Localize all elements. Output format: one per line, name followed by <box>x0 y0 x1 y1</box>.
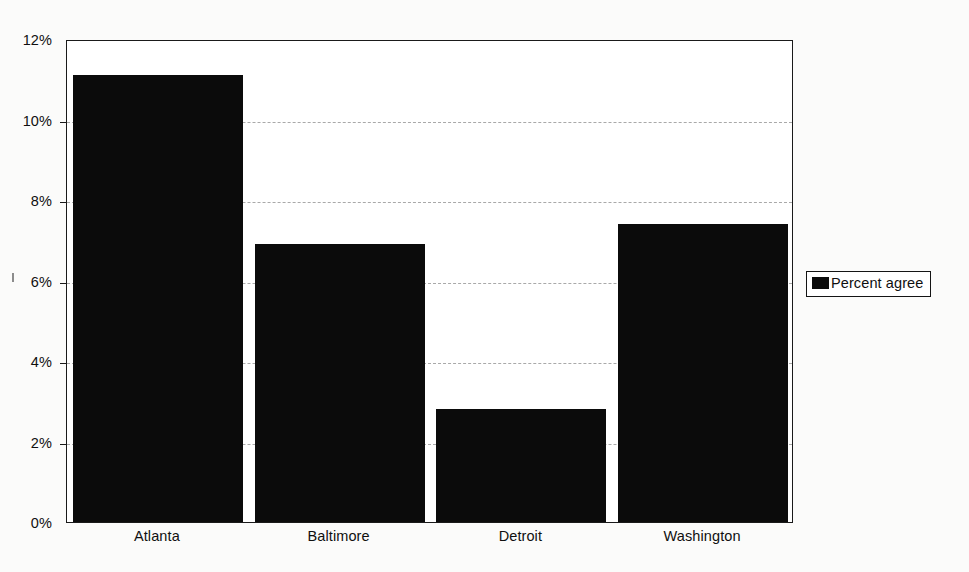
legend-label-percent-agree: Percent agree <box>831 276 923 291</box>
y-axis-tick-label: 4% <box>31 354 52 370</box>
x-axis-label-washington: Washington <box>664 528 741 544</box>
y-axis-tick <box>60 122 67 123</box>
y-axis-labels: 0%2%4%6%8%10%12% <box>0 40 60 523</box>
x-axis-label-atlanta: Atlanta <box>134 528 180 544</box>
legend-swatch-percent-agree <box>812 277 829 289</box>
y-axis-tick <box>60 202 67 203</box>
x-axis-label-detroit: Detroit <box>499 528 542 544</box>
y-axis-tick-label: 12% <box>23 32 52 48</box>
plot-area <box>66 40 793 523</box>
y-axis-tick-label: 6% <box>31 274 52 290</box>
scan-artifact-mark <box>12 273 14 282</box>
bar-washington <box>618 224 788 522</box>
x-axis-label-baltimore: Baltimore <box>308 528 370 544</box>
y-axis-tick-label: 2% <box>31 435 52 451</box>
x-axis-labels: AtlantaBaltimoreDetroitWashington <box>66 528 793 558</box>
y-axis-tick <box>60 283 67 284</box>
y-axis-tick-label: 8% <box>31 193 52 209</box>
bar-atlanta <box>73 75 243 522</box>
y-axis-tick-label: 0% <box>31 515 52 531</box>
legend: Percent agree <box>806 271 931 297</box>
bar-detroit <box>436 409 606 522</box>
y-axis-tick <box>60 363 67 364</box>
y-axis-tick <box>60 444 67 445</box>
y-axis-tick-label: 10% <box>23 113 52 129</box>
bars-layer <box>67 41 792 522</box>
bar-chart: 0%2%4%6%8%10%12% AtlantaBaltimoreDetroit… <box>0 0 969 572</box>
bar-baltimore <box>255 244 425 522</box>
